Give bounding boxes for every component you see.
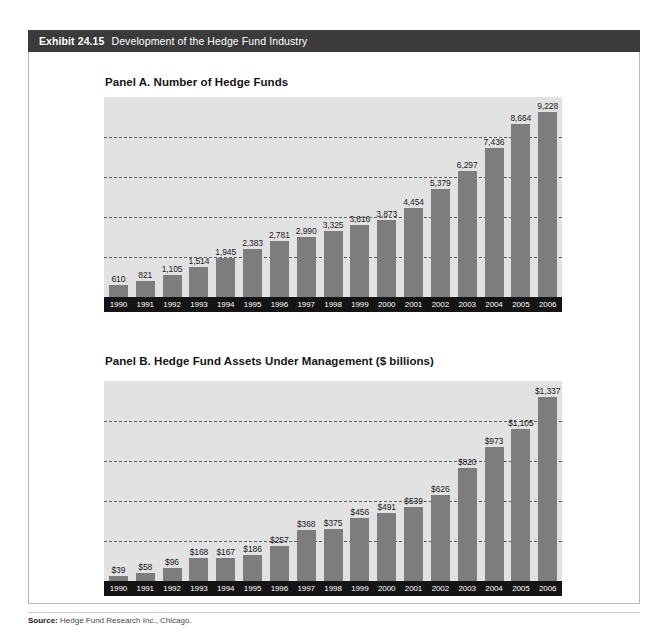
bar-slot[interactable]: 3,873	[373, 97, 400, 297]
bar-slot[interactable]: 1,945	[212, 97, 239, 297]
bar-slot[interactable]: 610	[105, 97, 132, 297]
bar-value-label: $58	[138, 562, 152, 572]
bar-slot[interactable]: $167	[212, 381, 239, 581]
bar[interactable]: 3,325	[324, 231, 343, 298]
bar-value-label: 1,105	[162, 264, 183, 274]
bar[interactable]: 3,616	[350, 225, 369, 297]
bar[interactable]: $186	[243, 555, 262, 581]
axis-tick-label: 2001	[400, 581, 427, 596]
panel-a-bars: 6108211,1051,5141,9452,3832,7812,9903,32…	[104, 97, 562, 297]
bar-slot[interactable]: 7,436	[481, 97, 508, 297]
bar[interactable]: $973	[485, 447, 504, 581]
bar-value-label: $491	[377, 502, 396, 512]
bar[interactable]: $96	[163, 568, 182, 581]
axis-tick-label: 2003	[454, 581, 481, 596]
bar-slot[interactable]: $186	[239, 381, 266, 581]
bar-slot[interactable]: 821	[132, 97, 159, 297]
bar[interactable]: 1,945	[216, 258, 235, 297]
panel-b-x-axis: 1990199119921993199419951996199719981999…	[104, 581, 562, 596]
bar-slot[interactable]: $375	[320, 381, 347, 581]
bar[interactable]: $1,105	[511, 429, 530, 581]
bar[interactable]: $626	[431, 495, 450, 581]
bar-slot[interactable]: 8,664	[507, 97, 534, 297]
bar-slot[interactable]: $539	[400, 381, 427, 581]
bar[interactable]: 5,379	[431, 189, 450, 297]
bar[interactable]: $456	[350, 518, 369, 581]
bar-slot[interactable]: $1,337	[534, 381, 561, 581]
bar-slot[interactable]: 3,325	[320, 97, 347, 297]
bar-slot[interactable]: $626	[427, 381, 454, 581]
bar-value-label: 4,454	[403, 197, 424, 207]
panel-b-title: Panel B. Hedge Fund Assets Under Managem…	[105, 355, 434, 367]
axis-tick-label: 1998	[320, 581, 347, 596]
bar-slot[interactable]: 2,781	[266, 97, 293, 297]
bar[interactable]: $167	[216, 558, 235, 581]
bar-slot[interactable]: $820	[454, 381, 481, 581]
bar-slot[interactable]: $491	[373, 381, 400, 581]
bar-value-label: $96	[165, 557, 179, 567]
bar[interactable]: 2,383	[243, 249, 262, 297]
bar[interactable]: $58	[136, 573, 155, 581]
panel-a-x-axis: 1990199119921993199419951996199719981999…	[104, 297, 562, 312]
bar[interactable]: $257	[270, 546, 289, 581]
bar[interactable]: 821	[136, 281, 155, 297]
bar-slot[interactable]: 6,297	[454, 97, 481, 297]
bar[interactable]: 9,228	[538, 112, 557, 297]
bar[interactable]: 7,436	[485, 148, 504, 297]
bar-slot[interactable]: 5,379	[427, 97, 454, 297]
bar-value-label: $39	[111, 565, 125, 575]
bar-value-label: 2,781	[269, 230, 290, 240]
bar-value-label: 6,297	[457, 160, 478, 170]
bar-slot[interactable]: 2,383	[239, 97, 266, 297]
axis-tick-label: 2004	[481, 297, 508, 312]
bar-slot[interactable]: $456	[346, 381, 373, 581]
bar-slot[interactable]: $96	[159, 381, 186, 581]
panel-a-chart: 6108211,1051,5141,9452,3832,7812,9903,32…	[104, 97, 562, 319]
axis-tick-label: 2004	[481, 581, 508, 596]
bar-slot[interactable]: $58	[132, 381, 159, 581]
bar-slot[interactable]: 1,105	[159, 97, 186, 297]
bar[interactable]: 3,873	[377, 220, 396, 297]
bar[interactable]: $1,337	[538, 397, 557, 581]
bar[interactable]: $368	[297, 530, 316, 581]
bar-slot[interactable]: $257	[266, 381, 293, 581]
bar-slot[interactable]: 9,228	[534, 97, 561, 297]
bar[interactable]: 2,990	[297, 237, 316, 297]
bar-slot[interactable]: $39	[105, 381, 132, 581]
bar-value-label: 8,664	[510, 113, 531, 123]
bar[interactable]: $375	[324, 529, 343, 581]
bar[interactable]: 1,514	[189, 267, 208, 297]
bar-slot[interactable]: $368	[293, 381, 320, 581]
bar-slot[interactable]: 1,514	[185, 97, 212, 297]
axis-tick-label: 1993	[185, 297, 212, 312]
bar[interactable]: $491	[377, 513, 396, 581]
bar-value-label: 2,990	[296, 226, 317, 236]
axis-tick-label: 1998	[320, 297, 347, 312]
bar-slot[interactable]: 2,990	[293, 97, 320, 297]
bar-slot[interactable]: 4,454	[400, 97, 427, 297]
bar[interactable]: 6,297	[458, 171, 477, 297]
bar-slot[interactable]: $973	[481, 381, 508, 581]
axis-tick-label: 1990	[105, 297, 132, 312]
bar-value-label: 9,228	[537, 101, 558, 111]
bar-slot[interactable]: $1,105	[507, 381, 534, 581]
bar[interactable]: $39	[109, 576, 128, 581]
bar[interactable]: 2,781	[270, 241, 289, 297]
bar-value-label: $539	[404, 496, 423, 506]
source-label: Source:	[28, 616, 58, 625]
bar[interactable]: 610	[109, 285, 128, 297]
bar[interactable]: 4,454	[404, 208, 423, 297]
axis-tick-label: 2000	[373, 581, 400, 596]
bar-value-label: $456	[351, 507, 370, 517]
bar[interactable]: $820	[458, 468, 477, 581]
axis-tick-label: 1996	[266, 297, 293, 312]
bar[interactable]: $168	[189, 558, 208, 581]
bar[interactable]: 1,105	[163, 275, 182, 297]
axis-tick-label: 1992	[159, 297, 186, 312]
bar-slot[interactable]: $168	[185, 381, 212, 581]
bar-value-label: $1,337	[535, 386, 560, 396]
bar-slot[interactable]: 3,616	[346, 97, 373, 297]
bar[interactable]: $539	[404, 507, 423, 581]
bar[interactable]: 8,664	[511, 124, 530, 297]
bar-value-label: 7,436	[484, 137, 505, 147]
